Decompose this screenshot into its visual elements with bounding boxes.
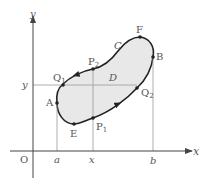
label-e: E [70, 128, 77, 139]
label-q1: Q1 [53, 72, 66, 85]
point-q2 [135, 86, 139, 90]
region-d-shape [57, 37, 154, 124]
tick-label-x: x [89, 154, 95, 165]
tick-label-b: b [150, 155, 156, 166]
region-label-d: D [108, 72, 117, 83]
tick-label-y: y [21, 79, 28, 90]
point-b [151, 55, 155, 59]
point-a [55, 101, 59, 105]
y-axis-label: y [29, 8, 36, 19]
label-f: F [136, 24, 143, 35]
label-p2: P2 [88, 56, 99, 69]
origin-label: O [20, 154, 28, 165]
tick-label-a: a [54, 154, 60, 165]
label-q2: Q2 [141, 87, 154, 100]
label-p1: P1 [96, 121, 107, 134]
point-f [138, 35, 142, 39]
diagram-canvas: y x O a x b y C D A E F B P1 P2 Q1 Q2 [0, 0, 211, 180]
curve-label-c: C [114, 40, 122, 51]
point-p1 [91, 116, 95, 120]
point-e [72, 122, 76, 126]
label-b: B [156, 51, 163, 62]
x-axis-label: x [193, 145, 200, 158]
label-a: A [45, 97, 54, 108]
